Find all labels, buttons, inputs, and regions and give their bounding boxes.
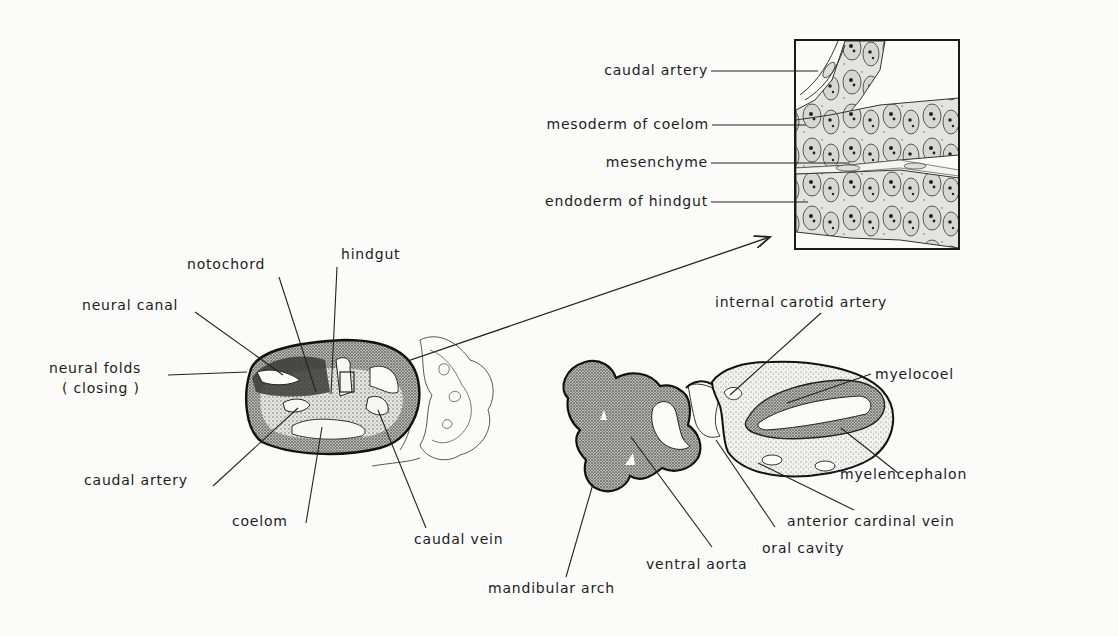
label-ventral-aorta: ventral aorta: [646, 556, 747, 572]
label-internal-carotid-artery: internal carotid artery: [715, 294, 887, 310]
label-mesenchyme: mesenchyme: [606, 154, 708, 170]
label-myelencephalon: myelencephalon: [840, 466, 967, 482]
figure-canvas: caudal artery mesoderm of coelom mesench…: [0, 0, 1118, 636]
label-endoderm-of-hindgut: endoderm of hindgut: [545, 193, 708, 209]
label-neural-folds-closing: ( closing ): [62, 380, 140, 396]
inset-histology: [795, 40, 959, 249]
label-myelocoel: myelocoel: [875, 366, 954, 382]
label-caudal-vein: caudal vein: [414, 531, 503, 547]
label-mandibular-arch: mandibular arch: [488, 580, 615, 596]
label-inset-caudal-artery: caudal artery: [604, 62, 708, 78]
label-neural-folds: neural folds: [49, 360, 141, 376]
label-mesoderm-of-coelom: mesoderm of coelom: [546, 116, 709, 132]
label-oral-cavity: oral cavity: [762, 540, 844, 556]
label-caudal-artery: caudal artery: [84, 472, 188, 488]
diagram-drawing: [0, 0, 1118, 636]
magnify-arrow: [358, 237, 770, 378]
tail-section-drawing: [246, 337, 493, 466]
label-coelom: coelom: [232, 513, 288, 529]
label-neural-canal: neural canal: [82, 297, 178, 313]
label-notochord: notochord: [187, 256, 265, 272]
label-anterior-cardinal-vein: anterior cardinal vein: [787, 513, 955, 529]
leader-lines: [168, 71, 898, 577]
label-hindgut: hindgut: [341, 246, 400, 262]
